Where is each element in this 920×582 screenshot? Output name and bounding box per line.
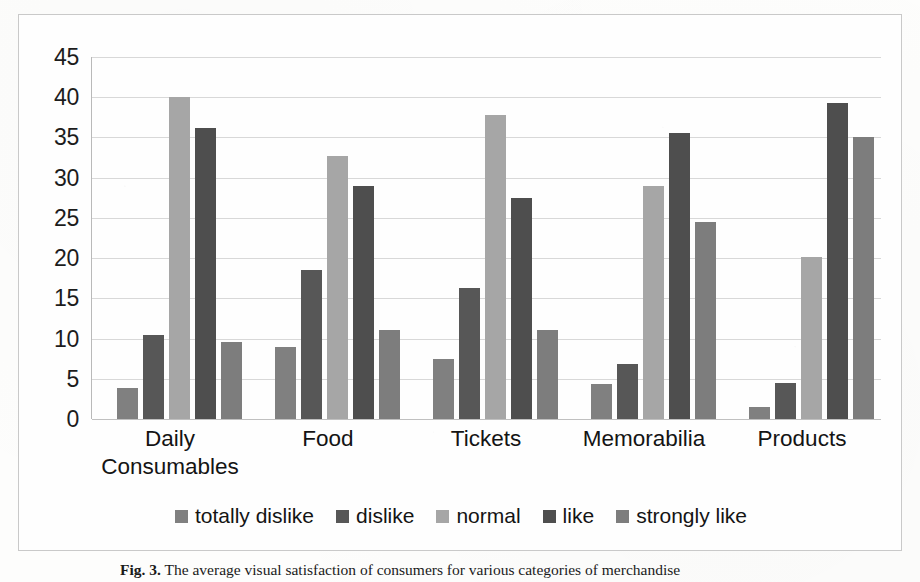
bar-group-products: [749, 57, 874, 419]
y-tick-label-20: 20: [54, 245, 79, 272]
bar-dislike-food: [301, 270, 322, 419]
chart-plot-area: 051015202530354045: [91, 57, 881, 419]
figure-frame: 051015202530354045 Daily ConsumablesFood…: [18, 14, 902, 551]
y-tick-label-45: 45: [54, 44, 79, 71]
x-label-food: Food: [249, 425, 407, 453]
figure-caption-label: Fig. 3.: [120, 561, 161, 578]
legend-label: strongly like: [636, 504, 747, 528]
bar-totally-dislike-memorabilia: [591, 384, 612, 419]
chart-legend: totally dislikedislikenormallikestrongly…: [19, 504, 903, 528]
bar-like-food: [353, 186, 374, 419]
figure-caption-text: The average visual satisfaction of consu…: [165, 561, 681, 578]
bar-normal-memorabilia: [643, 186, 664, 419]
y-tick-label-15: 15: [54, 285, 79, 312]
legend-swatch-icon: [543, 510, 556, 523]
legend-swatch-icon: [175, 510, 188, 523]
bar-series-layer: [92, 57, 881, 419]
y-tick-label-25: 25: [54, 204, 79, 231]
y-tick-label-10: 10: [54, 325, 79, 352]
y-tick-label-40: 40: [54, 84, 79, 111]
x-axis-category-labels: Daily ConsumablesFoodTicketsMemorabiliaP…: [91, 425, 881, 487]
gridline-0: [92, 419, 881, 420]
legend-item-totally-dislike[interactable]: totally dislike: [175, 504, 314, 528]
bar-dislike-products: [775, 383, 796, 419]
bar-normal-tickets: [485, 115, 506, 419]
bar-dislike-tickets: [459, 288, 480, 419]
bar-group-food: [275, 57, 400, 419]
y-tick-label-5: 5: [67, 365, 80, 392]
legend-item-like[interactable]: like: [543, 504, 595, 528]
bar-totally-dislike-food: [275, 347, 296, 419]
y-tick-label-30: 30: [54, 164, 79, 191]
bar-like-products: [827, 103, 848, 419]
legend-label: normal: [456, 504, 520, 528]
legend-label: like: [563, 504, 595, 528]
legend-item-normal[interactable]: normal: [436, 504, 520, 528]
bar-totally-dislike-products: [749, 407, 770, 419]
y-tick-label-0: 0: [67, 406, 80, 433]
y-tick-label-35: 35: [54, 124, 79, 151]
bar-totally-dislike-daily-consumables: [117, 388, 138, 419]
bar-group-daily-consumables: [117, 57, 242, 419]
bar-strongly-like-products: [853, 137, 874, 419]
figure-caption: Fig. 3. The average visual satisfaction …: [120, 560, 820, 582]
bar-normal-food: [327, 156, 348, 419]
bar-strongly-like-tickets: [537, 330, 558, 419]
legend-swatch-icon: [336, 510, 349, 523]
bar-strongly-like-daily-consumables: [221, 342, 242, 419]
x-label-tickets: Tickets: [407, 425, 565, 453]
bar-strongly-like-food: [379, 330, 400, 419]
x-label-daily-consumables: Daily Consumables: [91, 425, 249, 481]
legend-label: totally dislike: [195, 504, 314, 528]
bar-normal-daily-consumables: [169, 97, 190, 419]
bar-like-memorabilia: [669, 133, 690, 419]
x-label-products: Products: [723, 425, 881, 453]
legend-swatch-icon: [616, 510, 629, 523]
bar-dislike-memorabilia: [617, 364, 638, 419]
bar-normal-products: [801, 257, 822, 419]
legend-item-strongly-like[interactable]: strongly like: [616, 504, 747, 528]
bar-like-tickets: [511, 198, 532, 419]
legend-swatch-icon: [436, 510, 449, 523]
bar-group-tickets: [433, 57, 558, 419]
legend-label: dislike: [356, 504, 414, 528]
bar-dislike-daily-consumables: [143, 335, 164, 419]
bar-totally-dislike-tickets: [433, 359, 454, 419]
bar-group-memorabilia: [591, 57, 716, 419]
bar-like-daily-consumables: [195, 128, 216, 419]
legend-item-dislike[interactable]: dislike: [336, 504, 414, 528]
x-label-memorabilia: Memorabilia: [565, 425, 723, 453]
bar-strongly-like-memorabilia: [695, 222, 716, 419]
